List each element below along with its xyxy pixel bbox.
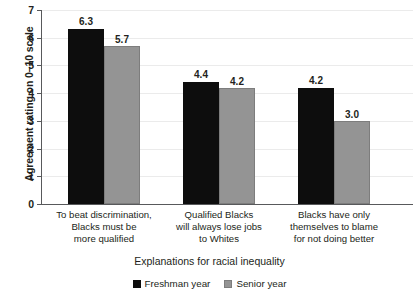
y-tick-label: 2 <box>28 143 34 155</box>
x-axis-spine <box>41 204 413 205</box>
bar-freshman-year-1: 4.4 <box>183 82 219 204</box>
bar-value-label: 4.2 <box>309 75 323 86</box>
category-label-line: for not doing better <box>254 233 414 245</box>
y-tick-label: 1 <box>28 170 34 182</box>
y-tick-label: 5 <box>28 59 34 71</box>
legend-item-freshman-year: Freshman year <box>133 278 211 289</box>
y-tick-label: 4 <box>28 87 34 99</box>
gridline <box>42 10 413 11</box>
bar-senior-year-1: 4.2 <box>219 88 255 204</box>
legend-item-senior-year: Senior year <box>224 278 286 289</box>
bar-value-label: 6.3 <box>79 16 93 27</box>
bar-freshman-year-2: 4.2 <box>298 88 334 204</box>
bar-value-label: 4.2 <box>230 76 244 87</box>
plot-area: 01234567 6.34.44.25.74.23.0 <box>42 10 413 204</box>
category-label-2: Blacks have onlythemselves to blamefor n… <box>254 209 414 246</box>
bar-value-label: 5.7 <box>115 34 129 45</box>
category-label-line: themselves to blame <box>254 221 414 233</box>
chart-legend: Freshman yearSenior year <box>0 278 419 289</box>
bar-senior-year-0: 5.7 <box>104 46 140 204</box>
legend-label: Senior year <box>236 278 286 289</box>
gray-square-swatch <box>224 280 232 288</box>
legend-label: Freshman year <box>145 278 211 289</box>
y-tick-label: 7 <box>28 4 34 16</box>
y-tick-label: 3 <box>28 115 34 127</box>
black-square-swatch <box>133 280 141 288</box>
bar-value-label: 4.4 <box>194 69 208 80</box>
x-axis-title: Explanations for racial inequality <box>0 255 419 267</box>
bar-value-label: 3.0 <box>345 109 359 120</box>
bar-senior-year-2: 3.0 <box>334 121 370 204</box>
category-label-line: Blacks have only <box>254 209 414 221</box>
bar-freshman-year-0: 6.3 <box>68 29 104 204</box>
y-axis-spine <box>41 10 42 205</box>
y-tick-label: 6 <box>28 32 34 44</box>
bar-chart: Agreement rating on 0–10 scale 01234567 … <box>0 0 419 302</box>
